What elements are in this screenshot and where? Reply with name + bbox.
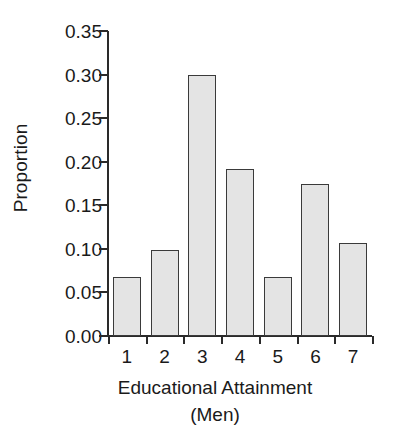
x-axis-tick-labels: 1234567	[108, 346, 372, 372]
y-axis-tick-label: 0.35	[40, 22, 102, 41]
bar	[151, 250, 179, 336]
plot-area	[108, 31, 372, 336]
x-axis-tick-mark	[372, 336, 374, 344]
bar	[113, 277, 141, 336]
x-axis-tick-label: 1	[112, 346, 142, 368]
x-axis-tick-label: 3	[187, 346, 217, 368]
x-axis-tick-mark	[297, 336, 299, 344]
x-axis-tick-mark	[146, 336, 148, 344]
y-axis-tick-label: 0.00	[40, 327, 102, 346]
bar	[339, 243, 367, 336]
x-axis-title: Educational Attainment (Men)	[40, 374, 390, 428]
y-axis-title: Proportion	[0, 0, 42, 336]
x-axis-tick-mark	[221, 336, 223, 344]
bar	[188, 75, 216, 336]
x-axis-tick-label: 5	[263, 346, 293, 368]
y-axis-tick-label: 0.10	[40, 239, 102, 258]
y-axis-tick-label: 0.20	[40, 152, 102, 171]
y-axis-tick-label: 0.30	[40, 65, 102, 84]
x-axis-tick-label: 6	[300, 346, 330, 368]
bar	[264, 277, 292, 336]
bar	[226, 169, 254, 336]
x-axis-tick-mark	[334, 336, 336, 344]
y-axis-tick-label: 0.25	[40, 109, 102, 128]
x-axis-tick-mark	[108, 336, 110, 344]
x-axis-tick-marks	[108, 336, 372, 345]
x-axis-tick-label: 2	[150, 346, 180, 368]
x-axis-tick-mark	[183, 336, 185, 344]
y-axis-title-text: Proportion	[10, 124, 32, 213]
bar-chart-figure: Proportion 0.000.050.100.150.200.250.300…	[0, 0, 412, 441]
x-axis-tick-label: 7	[338, 346, 368, 368]
y-axis-tick-label: 0.05	[40, 283, 102, 302]
x-axis-tick-label: 4	[225, 346, 255, 368]
x-axis-title-line1: Educational Attainment	[40, 374, 390, 401]
x-axis-tick-mark	[259, 336, 261, 344]
x-axis-title-line2: (Men)	[40, 401, 390, 428]
bar	[301, 184, 329, 336]
y-axis-tick-label: 0.15	[40, 196, 102, 215]
